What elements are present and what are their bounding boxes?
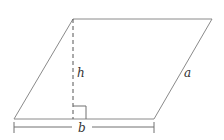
height-label: h [77,66,85,80]
parallelogram-diagram: h a b [0,0,224,140]
parallelogram-left-side [14,19,73,119]
base-label: b [78,121,86,135]
parallelogram-right-side [154,19,212,119]
side-label: a [184,66,191,80]
right-angle-marker [73,106,86,119]
